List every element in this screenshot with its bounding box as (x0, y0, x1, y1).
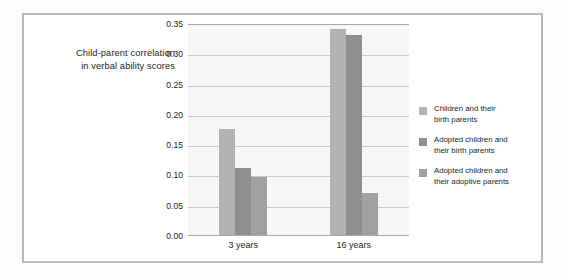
gridline (188, 116, 409, 117)
legend: Children and theirbirth parentsAdopted c… (419, 104, 539, 197)
bar (330, 29, 346, 235)
legend-item-label: Children and theirbirth parents (434, 104, 539, 125)
legend-item-label-line: their adoptive parents (434, 177, 539, 188)
bar (362, 193, 378, 235)
legend-item-label: Adopted children andtheir adoptive paren… (434, 166, 539, 187)
legend-swatch-icon (419, 138, 427, 146)
legend-swatch-icon (419, 169, 427, 177)
plot-area (188, 24, 409, 236)
legend-item-label-line: Adopted children and (434, 166, 539, 177)
y-axis-tick-label: 0.20 (139, 110, 183, 120)
legend-item-label-line: Adopted children and (434, 135, 539, 146)
legend-item-label-line: their birth parents (434, 146, 539, 157)
y-axis-tick-label: 0.05 (139, 201, 183, 211)
bar (251, 177, 267, 235)
y-axis-tick-label: 0.00 (139, 231, 183, 241)
legend-swatch-icon (419, 107, 427, 115)
gridline (188, 55, 409, 56)
legend-item: Adopted children andtheir adoptive paren… (419, 166, 539, 188)
legend-item-label: Adopted children andtheir birth parents (434, 135, 539, 156)
y-axis-tick-label: 0.30 (139, 49, 183, 59)
y-axis-tick-labels: 0.000.050.100.150.200.250.300.35 (137, 24, 183, 236)
y-axis-tick-label: 0.15 (139, 140, 183, 150)
bar (346, 35, 362, 235)
y-axis-tick-label: 0.10 (139, 170, 183, 180)
y-axis-tick-label: 0.25 (139, 80, 183, 90)
legend-item: Children and theirbirth parents (419, 104, 539, 126)
bar (235, 168, 251, 235)
bar (219, 129, 235, 235)
legend-item-label-line: Children and their (434, 104, 539, 115)
y-axis-tick-label: 0.35 (139, 19, 183, 29)
figure: Child-parent correlation in verbal abili… (0, 0, 567, 279)
x-axis-tick-label: 3 years (228, 240, 258, 250)
legend-item: Adopted children andtheir birth parents (419, 135, 539, 157)
x-axis-tick-labels: 3 years16 years (188, 240, 409, 256)
legend-item-label-line: birth parents (434, 115, 539, 126)
x-axis-tick-label: 16 years (336, 240, 371, 250)
gridline (188, 86, 409, 87)
plot-area-wrapper (188, 24, 409, 236)
